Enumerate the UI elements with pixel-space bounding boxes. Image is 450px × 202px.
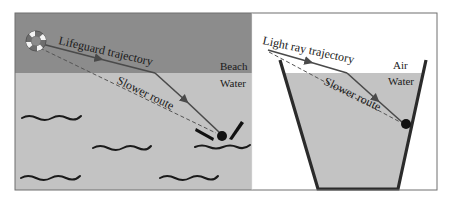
refraction-analogy-diagram: Lifeguard trajectory Slower route Beach … — [0, 0, 450, 202]
air-label: Air — [393, 59, 408, 71]
beach-label: Beach — [220, 60, 248, 72]
left-panel: Lifeguard trajectory Slower route Beach … — [15, 13, 252, 190]
left-water-label: Water — [220, 77, 246, 89]
life-ring-icon — [26, 31, 46, 51]
target-point-icon — [401, 119, 411, 129]
right-water-label: Water — [388, 75, 414, 87]
right-panel: Light ray trajectory Slower route Air Wa… — [252, 13, 437, 190]
